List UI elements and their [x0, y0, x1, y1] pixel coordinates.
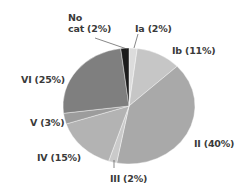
label-nocat: No cat (2%): [68, 12, 111, 34]
label-v: V (3%): [30, 117, 64, 128]
label-ii: II (40%): [194, 138, 234, 149]
label-iii: III (2%): [110, 173, 147, 184]
pie-chart: [0, 0, 241, 196]
label-nocat-line2: cat (2%): [68, 23, 111, 34]
pie-slice-vi: [63, 48, 129, 113]
label-ia: Ia (2%): [135, 23, 172, 34]
label-nocat-line1: No: [68, 12, 111, 23]
leader-line-ia: [134, 34, 138, 48]
pie-slices: [63, 48, 195, 164]
label-iv: IV (15%): [37, 152, 81, 163]
label-vi: VI (25%): [21, 74, 65, 85]
label-ib: Ib (11%): [172, 45, 215, 56]
leader-line-nocat: [95, 38, 127, 49]
